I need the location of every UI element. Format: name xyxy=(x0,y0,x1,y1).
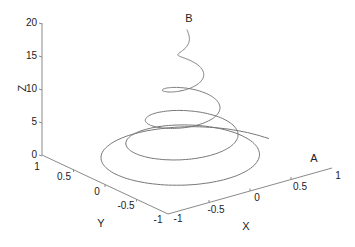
x-tick-0: 0 xyxy=(254,192,260,203)
x-tick-neg1: -1 xyxy=(174,213,183,224)
z-tick-20: 20 xyxy=(26,17,38,28)
y-tick-0.5: 0.5 xyxy=(57,171,71,182)
z-tick-0: 0 xyxy=(31,149,37,160)
y-ticks: 1 0.5 0 -0.5 -1 xyxy=(34,161,163,225)
x-ticks: -1 -0.5 0 0.5 1 xyxy=(174,170,342,224)
annotation-b: B xyxy=(185,12,192,24)
x-tick-neg0.5: -0.5 xyxy=(207,204,225,215)
y-tick-0: 0 xyxy=(94,186,100,197)
y-tick-neg0.5: -0.5 xyxy=(117,200,135,211)
x-axis-label: X xyxy=(242,220,250,232)
annotation-a: A xyxy=(310,152,318,164)
y-tick-neg1: -1 xyxy=(154,214,163,225)
z-ticks: 0 5 10 15 20 xyxy=(26,17,42,160)
3d-line-plot: 0 5 10 15 20 Z 1 0.5 0 -0.5 -1 Y -1 -0.5… xyxy=(0,0,355,247)
x-tick-0.5: 0.5 xyxy=(293,181,307,192)
y-tick-1: 1 xyxy=(34,161,40,172)
z-axis-label: Z xyxy=(16,84,28,91)
z-tick-5: 5 xyxy=(31,116,37,127)
y-axis-label: Y xyxy=(97,217,105,229)
spiral-curve xyxy=(101,30,269,186)
z-tick-15: 15 xyxy=(26,50,38,61)
x-tick-1: 1 xyxy=(335,170,341,181)
